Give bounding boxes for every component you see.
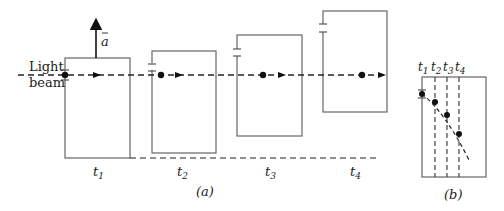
slit-mark-t3 [233, 49, 241, 56]
panel-b-label-t3: t3 [443, 61, 454, 78]
light-beam-label-line1: Light [29, 60, 64, 73]
elevator-box-t3 [237, 35, 302, 136]
beam-arrow-t3 [278, 72, 286, 78]
light-beam-label-line2: beam [29, 76, 65, 89]
photon-dot-t3 [260, 72, 266, 78]
time-label-t1: t1 [93, 165, 104, 183]
photon-dot-t2 [158, 72, 164, 78]
elevator-frame-b [422, 77, 486, 177]
elevator-box-t1 [65, 58, 130, 158]
photon-b-t2 [432, 99, 438, 105]
diagram-canvas [0, 0, 504, 211]
light-trajectory-b [422, 94, 469, 160]
acceleration-label: a [101, 35, 109, 48]
photon-dot-t4 [359, 72, 365, 78]
time-label-t2: t2 [177, 165, 188, 183]
panel-b-label-t2: t2 [431, 61, 442, 78]
elevator-box-t4 [323, 11, 387, 112]
panel-a-caption: (a) [196, 185, 214, 198]
elevator-box-t2 [152, 51, 216, 153]
photon-b-t4 [456, 131, 462, 137]
beam-arrow-t2 [175, 72, 183, 78]
beam-arrow-t1 [93, 72, 101, 78]
slit-mark-t4 [319, 24, 327, 32]
panel-b-label-t4: t4 [455, 61, 466, 78]
photon-b-t3 [444, 112, 450, 118]
time-label-t3: t3 [265, 165, 276, 183]
time-label-t4: t4 [350, 165, 361, 183]
photon-b-t1 [419, 91, 425, 97]
slit-mark-t2 [148, 63, 156, 71]
beam-arrow-t4 [378, 72, 386, 78]
panel-b-caption: (b) [444, 188, 462, 201]
panel-b-label-t1: t1 [418, 61, 429, 78]
